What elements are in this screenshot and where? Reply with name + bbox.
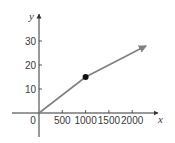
chart: 0500100015002000 102030 x y [0,0,175,143]
y-tick-label: 10 [25,84,37,95]
x-ticks: 0500100015002000 [30,110,144,126]
y-tick-label: 20 [25,60,37,71]
x-tick-label: 1500 [98,115,121,126]
data-line [39,46,146,113]
x-axis-label: x [157,113,163,125]
y-axis-label: y [28,10,34,22]
x-tick-label: 2000 [121,115,144,126]
data-point-marker [83,74,89,80]
y-tick-label: 30 [25,36,37,47]
x-tick-label: 0 [30,115,36,126]
x-tick-label: 1000 [74,115,97,126]
x-tick-label: 500 [54,115,71,126]
